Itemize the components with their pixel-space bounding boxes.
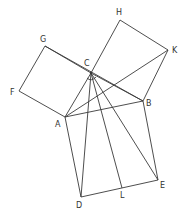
vertex-label-a: A xyxy=(55,120,61,129)
segment-CA xyxy=(65,73,91,117)
vertex-label-e: E xyxy=(160,181,165,190)
vertex-label-k: K xyxy=(172,46,178,55)
pythagorean-proof-diagram: HGCKFBAELD xyxy=(0,0,180,220)
segment-GB xyxy=(45,46,143,101)
segment-CD xyxy=(81,73,91,197)
segment-CH xyxy=(91,20,120,73)
segment-AK xyxy=(65,50,168,117)
line-segments xyxy=(19,20,168,197)
segment-AD xyxy=(65,117,81,197)
segment-FG xyxy=(19,46,45,91)
segment-HK xyxy=(120,20,168,50)
vertex-labels: HGCKFBAELD xyxy=(10,8,178,210)
vertex-label-b: B xyxy=(146,99,152,108)
vertex-c-dot xyxy=(90,72,92,74)
vertex-label-h: H xyxy=(116,8,122,17)
vertex-label-l: L xyxy=(120,191,125,200)
vertex-label-d: D xyxy=(76,201,82,210)
vertex-label-g: G xyxy=(40,35,46,44)
vertex-label-f: F xyxy=(10,88,15,97)
vertex-label-c: C xyxy=(84,59,90,68)
segment-AF xyxy=(19,91,65,117)
